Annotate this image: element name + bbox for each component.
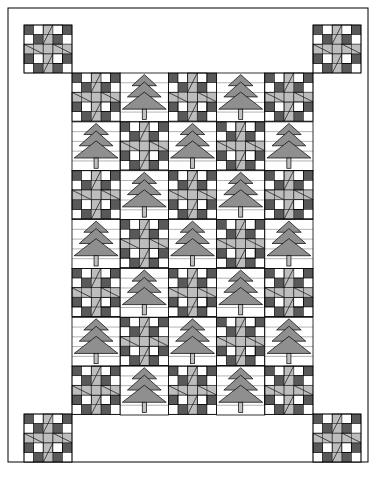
star-checker-square — [351, 54, 361, 64]
tree-trunk — [190, 256, 194, 266]
star-checker-square — [130, 258, 140, 268]
star-checker-square — [120, 151, 130, 161]
star-checker-square — [226, 160, 236, 170]
star-checker-square — [130, 248, 140, 258]
star-checker-square — [246, 151, 256, 161]
star-checker-square — [226, 248, 236, 258]
star-checker-square — [168, 376, 178, 386]
star-checker-square — [82, 395, 92, 405]
star-checker-square — [207, 83, 217, 93]
star-checker-square — [294, 200, 304, 210]
star-center-square — [188, 190, 198, 200]
star-checker-square — [197, 395, 207, 405]
star-checker-square — [72, 200, 82, 210]
star-center-square — [43, 433, 53, 443]
tree-trunk — [190, 353, 194, 363]
star-checker-square — [313, 414, 323, 424]
star-checker-square — [149, 160, 159, 170]
star-checker-square — [226, 220, 236, 230]
star-checker-square — [265, 278, 275, 288]
star-checker-square — [217, 122, 227, 132]
star-checker-square — [62, 424, 72, 434]
corner-star-block-top-left — [24, 25, 72, 73]
star-checker-square — [24, 414, 34, 424]
star-checker-square — [265, 73, 275, 83]
star-checker-square — [62, 452, 72, 462]
star-checker-square — [178, 83, 188, 93]
star-center-square — [188, 385, 198, 395]
star-checker-square — [72, 268, 82, 278]
star-checker-square — [294, 112, 304, 122]
star-checker-square — [265, 395, 275, 405]
tree-trunk — [287, 158, 291, 168]
star-checker-square — [34, 414, 44, 424]
star-checker-square — [120, 220, 130, 230]
star-checker-square — [274, 376, 284, 386]
star-center-square — [236, 141, 246, 151]
star-checker-square — [274, 297, 284, 307]
star-block — [217, 317, 265, 365]
corner-star-block-top-right — [313, 25, 361, 73]
star-checker-square — [226, 151, 236, 161]
star-checker-square — [255, 317, 265, 327]
star-checker-square — [101, 102, 111, 112]
star-checker-square — [197, 307, 207, 317]
star-block — [120, 317, 168, 365]
star-checker-square — [72, 73, 82, 83]
star-checker-square — [24, 424, 34, 434]
star-checker-square — [303, 180, 313, 190]
star-checker-square — [207, 200, 217, 210]
star-checker-square — [111, 209, 121, 219]
star-checker-square — [207, 297, 217, 307]
star-checker-square — [149, 229, 159, 239]
star-checker-square — [323, 63, 333, 73]
star-checker-square — [130, 220, 140, 230]
star-checker-square — [323, 452, 333, 462]
star-checker-square — [159, 346, 169, 356]
star-checker-square — [111, 83, 121, 93]
star-checker-square — [62, 54, 72, 64]
star-checker-square — [101, 73, 111, 83]
star-checker-square — [226, 229, 236, 239]
star-checker-square — [294, 102, 304, 112]
quilt-diagram-canvas — [0, 0, 376, 478]
star-checker-square — [197, 83, 207, 93]
star-checker-square — [111, 297, 121, 307]
star-checker-square — [130, 131, 140, 141]
star-checker-square — [159, 122, 169, 132]
star-checker-square — [120, 122, 130, 132]
star-center-square — [91, 385, 101, 395]
star-checker-square — [207, 405, 217, 415]
star-checker-square — [178, 180, 188, 190]
star-checker-square — [130, 346, 140, 356]
star-checker-square — [323, 35, 333, 45]
star-checker-square — [178, 209, 188, 219]
star-checker-square — [303, 171, 313, 181]
star-checker-square — [265, 268, 275, 278]
star-checker-square — [246, 356, 256, 366]
star-checker-square — [72, 278, 82, 288]
corner-star-block-bottom-left — [24, 414, 72, 462]
star-checker-square — [130, 160, 140, 170]
star-checker-square — [274, 209, 284, 219]
star-checker-square — [226, 327, 236, 337]
star-checker-square — [323, 25, 333, 35]
star-checker-square — [53, 443, 63, 453]
star-checker-square — [294, 209, 304, 219]
star-checker-square — [111, 366, 121, 376]
star-checker-square — [168, 112, 178, 122]
star-checker-square — [24, 443, 34, 453]
star-center-square — [91, 288, 101, 298]
star-checker-square — [149, 317, 159, 327]
star-center-square — [139, 337, 149, 347]
star-checker-square — [24, 35, 34, 45]
star-checker-square — [207, 102, 217, 112]
star-checker-square — [226, 356, 236, 366]
star-center-square — [332, 433, 342, 443]
star-checker-square — [178, 376, 188, 386]
star-checker-square — [342, 25, 352, 35]
tree-trunk — [190, 158, 194, 168]
star-checker-square — [265, 83, 275, 93]
star-checker-square — [303, 376, 313, 386]
tree-trunk — [239, 207, 243, 217]
